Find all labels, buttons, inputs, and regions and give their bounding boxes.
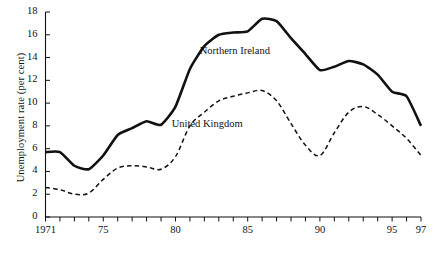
y-axis-tick-label: 18 — [16, 5, 38, 16]
y-axis-tick-label: 10 — [16, 96, 38, 107]
y-axis-tick-label: 6 — [16, 142, 38, 153]
y-axis-tick-label: 16 — [16, 28, 38, 39]
x-axis-tick-label: 85 — [228, 224, 268, 235]
chart-plot-area — [0, 0, 437, 259]
unemployment-rate-line-chart: Unemployment rate (per cent) 02468101214… — [0, 0, 437, 259]
y-axis-tick-label: 12 — [16, 73, 38, 84]
y-axis-tick-label: 2 — [16, 187, 38, 198]
x-axis-tick-label: 1971 — [26, 224, 66, 235]
x-axis-tick-label: 90 — [300, 224, 340, 235]
y-axis-tick-label: 0 — [16, 210, 38, 221]
y-axis-tick-label: 4 — [16, 164, 38, 175]
series-annotation-united-kingdom: United Kingdom — [172, 118, 243, 129]
series-annotation-northern-ireland: Northern Ireland — [200, 45, 270, 56]
y-axis-tick-label: 14 — [16, 51, 38, 62]
x-axis-tick-label: 97 — [401, 224, 437, 235]
x-axis-tick-label: 80 — [155, 224, 195, 235]
series-line-united-kingdom — [46, 90, 422, 195]
y-axis-tick-label: 8 — [16, 119, 38, 130]
x-axis-tick-label: 75 — [83, 224, 123, 235]
series-line-northern-ireland — [46, 19, 422, 170]
